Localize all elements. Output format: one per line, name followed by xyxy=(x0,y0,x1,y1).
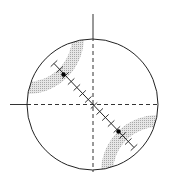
lower-point xyxy=(116,129,120,133)
shaded-bands xyxy=(0,0,170,184)
diagram-canvas xyxy=(0,0,170,184)
upper-left-band xyxy=(0,0,84,94)
stereonet-diagram xyxy=(0,0,170,184)
upper-point xyxy=(61,72,65,76)
lower-right-band xyxy=(101,115,170,184)
